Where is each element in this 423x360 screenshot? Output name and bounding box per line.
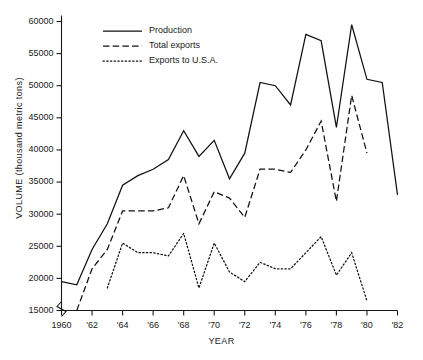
series-line-exports-to-u-s-a xyxy=(107,233,367,300)
y-axis-tick-label: 45000 xyxy=(28,112,53,122)
y-axis-tick-label: 30000 xyxy=(28,209,53,219)
y-axis-tick-label: 25000 xyxy=(28,241,53,251)
x-axis-tick-label: '82 xyxy=(392,320,404,330)
y-axis-tick-label: 55000 xyxy=(28,48,53,58)
x-axis-tick-label: '74 xyxy=(269,320,281,330)
x-axis-title: YEAR xyxy=(208,336,234,346)
legend-label: Production xyxy=(149,25,192,35)
x-axis-tick-label: '70 xyxy=(208,320,220,330)
x-axis-tick-label: 1960 xyxy=(51,320,71,330)
legend-label: Exports to U.S.A. xyxy=(149,55,218,65)
y-axis-title: VOLUME (thousand metric tons) xyxy=(14,77,24,219)
line-chart: 1500020000250003000035000400004500050000… xyxy=(0,0,423,360)
x-axis-tick-label: '66 xyxy=(147,320,159,330)
chart-container: 1500020000250003000035000400004500050000… xyxy=(0,0,423,360)
x-axis-tick-label: '80 xyxy=(361,320,373,330)
x-axis-tick-label: '62 xyxy=(86,320,98,330)
x-axis-tick-label: '68 xyxy=(178,320,190,330)
y-axis-tick-label: 35000 xyxy=(28,176,53,186)
x-axis-tick-label: '78 xyxy=(331,320,343,330)
y-axis-tick-label: 20000 xyxy=(28,273,53,283)
x-axis-tick-label: '64 xyxy=(117,320,129,330)
y-axis-tick-label: 15000 xyxy=(28,305,53,315)
series-line-total-exports xyxy=(77,95,367,310)
y-axis-tick-label: 40000 xyxy=(28,144,53,154)
y-axis-tick-label: 50000 xyxy=(28,80,53,90)
series-line-production xyxy=(62,25,398,285)
x-axis-tick-label: '76 xyxy=(300,320,312,330)
legend-label: Total exports xyxy=(149,40,201,50)
y-axis-tick-label: 60000 xyxy=(28,16,53,26)
x-axis-tick-label: '72 xyxy=(239,320,251,330)
